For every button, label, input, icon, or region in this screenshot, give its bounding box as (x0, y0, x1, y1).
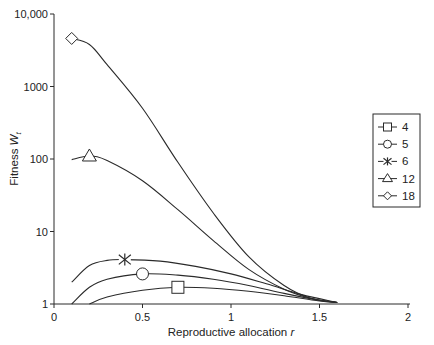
series-12 (72, 149, 338, 303)
circle-marker-icon (137, 268, 149, 280)
x-tick-label: 1.5 (312, 311, 327, 323)
legend-label: 6 (402, 155, 408, 167)
legend-label: 18 (402, 190, 415, 202)
legend-label: 4 (402, 121, 409, 133)
axes: 00.511.52110100100010,000 (14, 8, 411, 323)
series-line (72, 156, 338, 303)
y-tick-label: 10,000 (14, 8, 48, 20)
series-18 (66, 32, 338, 302)
square-marker-icon (172, 281, 184, 293)
plot-area (66, 32, 338, 304)
asterisk-marker-icon (384, 157, 392, 165)
x-tick-label: 1 (228, 311, 234, 323)
y-tick-label: 100 (30, 153, 48, 165)
series-line (72, 274, 338, 304)
circle-marker-icon (384, 140, 392, 148)
x-tick-label: 0 (51, 311, 57, 323)
x-tick-label: 0.5 (135, 311, 150, 323)
series-line (72, 39, 338, 303)
y-axis-title: Fitness Wt (8, 132, 23, 186)
y-tick-label: 10 (36, 226, 48, 238)
chart: 00.511.52110100100010,000 4561218 Reprod… (0, 0, 434, 345)
series-4 (89, 281, 337, 304)
y-tick-label: 1 (42, 298, 48, 310)
legend: 4561218 (373, 114, 420, 207)
triangle-marker-icon (82, 149, 96, 161)
series-5 (72, 268, 338, 304)
square-marker-icon (384, 123, 392, 131)
diamond-marker-icon (66, 32, 78, 44)
y-tick-label: 1000 (24, 81, 48, 93)
x-axis-title: Reproductive allocation r (168, 326, 296, 338)
legend-label: 5 (402, 138, 408, 150)
asterisk-marker-icon (119, 254, 131, 266)
x-tick-label: 2 (405, 311, 411, 323)
legend-label: 12 (402, 173, 415, 185)
